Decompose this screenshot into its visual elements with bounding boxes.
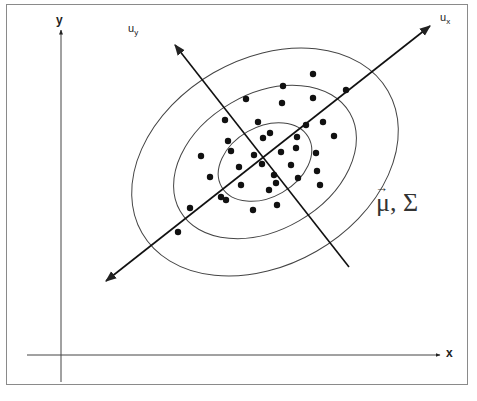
sigma-symbol: Σ <box>403 188 418 217</box>
data-point <box>223 197 229 203</box>
data-point <box>343 87 349 93</box>
ux-subscript: x <box>446 17 450 26</box>
data-point <box>198 153 204 159</box>
data-point <box>267 130 273 136</box>
data-point <box>228 148 234 154</box>
parameters-label: →μ, Σ <box>376 188 418 218</box>
data-point <box>273 180 279 186</box>
data-point <box>279 100 285 106</box>
data-point <box>314 168 320 174</box>
data-point <box>320 119 326 125</box>
uy-subscript: y <box>134 28 138 37</box>
data-point <box>236 164 242 170</box>
data-point <box>274 202 280 208</box>
data-point <box>260 135 266 141</box>
data-point <box>225 138 231 144</box>
data-point <box>331 133 337 139</box>
covariance-ellipses <box>91 2 440 322</box>
data-point <box>317 182 323 188</box>
data-point <box>278 149 284 155</box>
mu-symbol: →μ <box>376 188 390 217</box>
x-axis-label: x <box>446 346 453 360</box>
data-point <box>251 152 257 158</box>
vector-arrow-icon: → <box>375 180 387 196</box>
ellipse-middle <box>146 54 384 270</box>
data-point <box>310 71 316 77</box>
data-point <box>293 145 299 151</box>
data-point <box>250 207 256 213</box>
data-point <box>288 162 294 168</box>
data-point <box>280 83 286 89</box>
data-point <box>303 122 309 128</box>
data-point <box>255 119 261 125</box>
data-point <box>313 150 319 156</box>
data-point <box>222 117 228 123</box>
data-point <box>238 182 244 188</box>
ux-axis-label: ux <box>440 11 450 26</box>
data-point <box>310 95 316 101</box>
data-point <box>187 205 193 211</box>
data-point <box>266 187 272 193</box>
uy-axis-label: uy <box>128 22 138 37</box>
data-point <box>243 96 249 102</box>
major-axis-ux <box>106 26 430 281</box>
y-axis-label: y <box>56 13 63 27</box>
ellipse-outer <box>91 2 440 322</box>
data-point <box>294 134 300 140</box>
data-point <box>295 175 301 181</box>
separator: , <box>390 188 397 217</box>
sample-points <box>175 71 349 235</box>
data-point <box>259 161 265 167</box>
data-point <box>271 172 277 178</box>
data-point <box>207 174 213 180</box>
data-point <box>175 229 181 235</box>
